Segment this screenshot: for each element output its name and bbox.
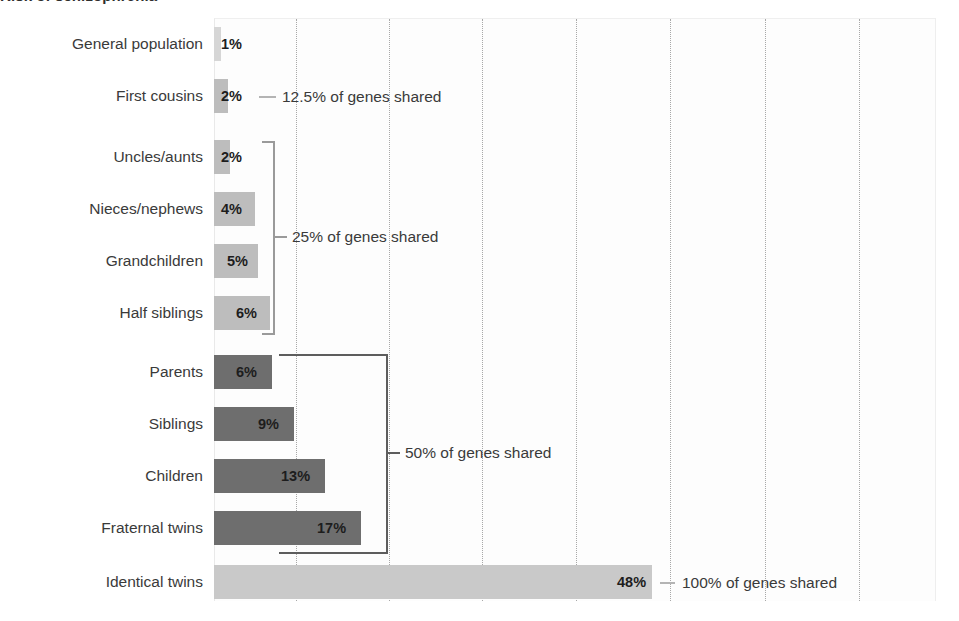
bar-value-label: 2% <box>221 79 242 113</box>
row-label: Siblings <box>0 398 203 450</box>
bar-value-label: 4% <box>221 192 242 226</box>
row-label: First cousins <box>0 70 203 122</box>
row-label: Half siblings <box>0 287 203 339</box>
bar <box>214 27 221 61</box>
row-label: Nieces/nephews <box>0 183 203 235</box>
bar-value-label: 1% <box>221 27 242 61</box>
bar-row-general-population[interactable]: General population 1% <box>0 18 959 70</box>
bar-row-first-cousins[interactable]: First cousins 2% <box>0 70 959 122</box>
bar-value-label: 48% <box>617 565 646 599</box>
bar-value-label: 5% <box>227 244 248 278</box>
row-label: General population <box>0 18 203 70</box>
bar-value-label: 9% <box>258 407 279 441</box>
page-title: Risk of schizophrenia <box>0 0 300 4</box>
row-label: Identical twins <box>0 556 203 608</box>
bar-row-fraternal-twins[interactable]: Fraternal twins 17% <box>0 502 959 554</box>
annotation-connector-12-5 <box>259 96 276 98</box>
bar-row-grandchildren[interactable]: Grandchildren 5% <box>0 235 959 287</box>
bar-row-nieces-nephews[interactable]: Nieces/nephews 4% <box>0 183 959 235</box>
row-label: Fraternal twins <box>0 502 203 554</box>
bar-row-uncles-aunts[interactable]: Uncles/aunts 2% <box>0 131 959 183</box>
annotation-connector-100 <box>660 582 675 584</box>
annotation-label-12-5: 12.5% of genes shared <box>282 88 441 106</box>
annotation-label-50: 50% of genes shared <box>405 444 552 462</box>
bar-value-label: 6% <box>236 296 257 330</box>
bar-row-parents[interactable]: Parents 6% <box>0 346 959 398</box>
row-label: Grandchildren <box>0 235 203 287</box>
annotation-bracket-25 <box>262 141 275 335</box>
row-label: Children <box>0 450 203 502</box>
annotation-bracket-50 <box>279 354 388 554</box>
bar-row-half-siblings[interactable]: Half siblings 6% <box>0 287 959 339</box>
annotation-bracket-stem-50 <box>386 452 400 454</box>
annotation-label-100: 100% of genes shared <box>682 574 837 592</box>
annotation-bracket-stem-25 <box>273 236 287 238</box>
bar-row-siblings[interactable]: Siblings 9% <box>0 398 959 450</box>
bar-value-label: 6% <box>236 355 257 389</box>
annotation-label-25: 25% of genes shared <box>292 228 439 246</box>
bar <box>214 565 652 599</box>
row-label: Uncles/aunts <box>0 131 203 183</box>
bar-value-label: 2% <box>221 140 242 174</box>
row-label: Parents <box>0 346 203 398</box>
